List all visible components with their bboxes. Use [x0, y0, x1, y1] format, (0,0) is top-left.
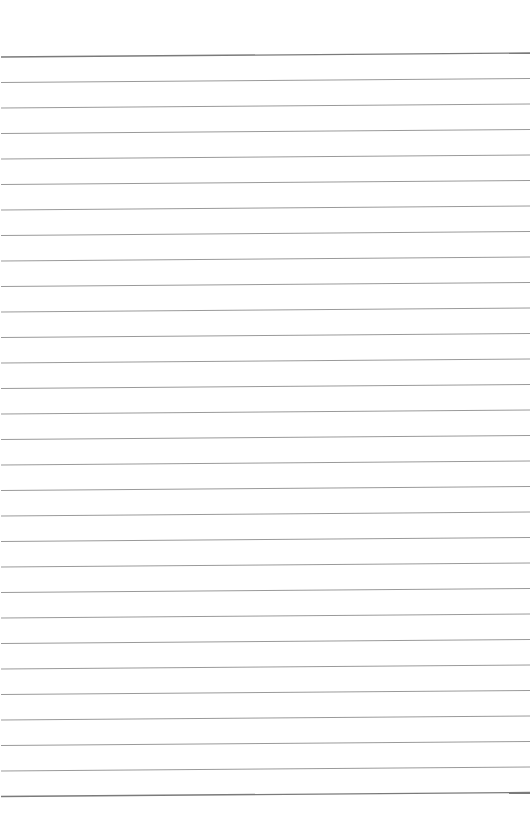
ruled-line	[1, 359, 530, 363]
ruled-line	[1, 283, 530, 287]
ruled-line	[1, 589, 530, 593]
ruled-line	[1, 53, 530, 57]
ruled-line	[1, 742, 530, 746]
ruled-line	[1, 716, 530, 720]
ruled-line	[1, 410, 530, 414]
ruled-line	[1, 512, 530, 516]
ruled-line	[1, 104, 530, 108]
ruled-line	[1, 232, 530, 236]
lined-paper-page	[0, 0, 532, 831]
ruled-line	[1, 155, 530, 159]
ruled-line	[1, 665, 530, 669]
ruled-line	[1, 436, 530, 440]
ruled-line	[1, 793, 530, 797]
ruled-line	[1, 538, 530, 542]
ruled-line	[1, 767, 530, 771]
ruled-line	[1, 206, 530, 210]
ruled-line	[1, 257, 530, 261]
ruled-line	[1, 308, 530, 312]
ruled-line	[1, 487, 530, 491]
ruled-lines	[0, 0, 532, 831]
ruled-line	[1, 181, 530, 185]
ruled-line	[1, 79, 530, 83]
ruled-line	[1, 385, 530, 389]
ruled-line	[1, 563, 530, 567]
ruled-line	[1, 640, 530, 644]
ruled-line	[1, 614, 530, 618]
ruled-line	[1, 461, 530, 465]
ruled-line	[1, 334, 530, 338]
ruled-line	[1, 130, 530, 134]
ruled-line	[1, 691, 530, 695]
